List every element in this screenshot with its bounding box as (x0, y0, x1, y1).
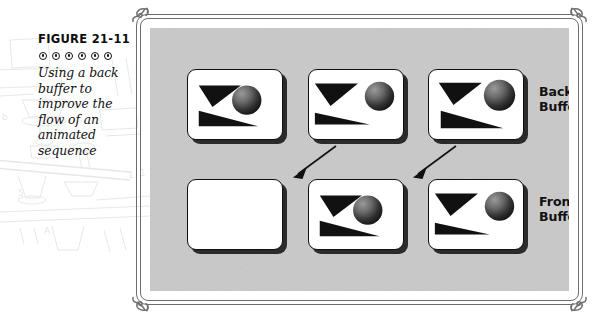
back-buffer-frame-3[interactable] (428, 69, 524, 140)
front-buffer-frame-1[interactable] (187, 179, 283, 250)
back-buffer-frame-1[interactable] (187, 69, 283, 140)
concentric-dot-ornament-icon (39, 52, 47, 60)
copy-arrow-2 (415, 146, 456, 178)
figure-number: FIGURE 21-11 (38, 32, 138, 46)
caption-dot-ornament-row (39, 51, 138, 60)
figure-caption-text: Using a back buffer to improve the flow … (38, 65, 138, 159)
back-buffer-label: Back Buffer (539, 85, 569, 114)
scroll-flourish-ornament-icon (566, 288, 592, 314)
front-buffer-frame-3[interactable] (428, 179, 524, 250)
concentric-dot-ornament-icon (91, 52, 99, 60)
scroll-flourish-ornament-icon (566, 5, 592, 31)
scroll-flourish-ornament-icon (127, 288, 153, 314)
front-buffer-label: Front Buffer (539, 195, 569, 224)
concentric-dot-ornament-icon (104, 52, 112, 60)
concentric-dot-ornament-icon (52, 52, 60, 60)
svg-text:5: 5 (18, 188, 24, 198)
figure-caption-block: FIGURE 21-11 Using a back buffer to impr… (38, 32, 138, 159)
figure-frame: Back Buffer Front Buffer (136, 14, 583, 305)
back-buffer-frame-2[interactable] (308, 69, 404, 140)
svg-text:b: b (2, 112, 8, 122)
stage-texture (150, 28, 569, 291)
concentric-dot-ornament-icon (78, 52, 86, 60)
copy-arrow-1 (295, 146, 336, 178)
svg-text:1: 1 (128, 170, 134, 180)
diagram-stage: Back Buffer Front Buffer (150, 28, 569, 291)
concentric-dot-ornament-icon (65, 52, 73, 60)
svg-text:A: A (44, 226, 51, 236)
front-buffer-frame-2[interactable] (308, 179, 404, 250)
